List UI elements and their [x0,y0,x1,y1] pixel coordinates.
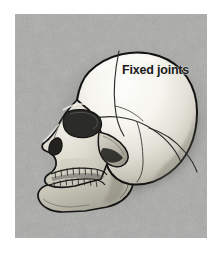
skull-illustration [15,14,207,238]
illustration-panel: Fixed joints [15,14,207,238]
figure-root: Fixed joints [0,0,218,253]
